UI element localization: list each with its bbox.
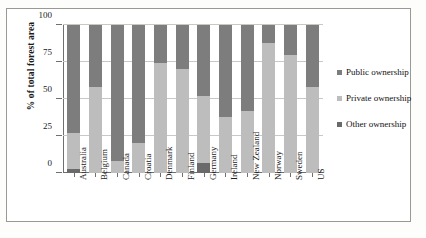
plot-area: 0255075100 AustraliaBelgiumCanadaCroatia… xyxy=(63,25,323,173)
bar-segment[interactable] xyxy=(89,25,102,87)
x-axis-label: Sweden xyxy=(294,152,304,181)
legend-item[interactable]: Other ownership xyxy=(337,119,426,129)
x-axis-label: Australia xyxy=(78,147,88,180)
legend-swatch-icon xyxy=(337,96,342,101)
x-axis-label: Denmark xyxy=(164,147,174,181)
bar-group: AustraliaBelgiumCanadaCroatiaDenmarkFinl… xyxy=(63,25,323,173)
bar-column[interactable]: Belgium xyxy=(89,25,102,173)
x-axis-label: Germany xyxy=(208,147,218,181)
y-axis-tick xyxy=(56,135,62,136)
x-axis-tick xyxy=(312,173,313,177)
bar-segment[interactable] xyxy=(111,25,124,161)
bar-column[interactable]: Ireland xyxy=(219,25,232,173)
x-axis-tick xyxy=(290,173,291,177)
bar-column[interactable]: Canada xyxy=(111,25,124,173)
bar-column[interactable]: Australia xyxy=(67,25,80,173)
x-axis-tick xyxy=(160,173,161,177)
x-axis-tick xyxy=(95,173,96,177)
y-axis-label: 75 xyxy=(43,47,52,57)
bar-segment[interactable] xyxy=(284,25,297,55)
y-axis-label: 100 xyxy=(39,10,53,20)
bar-column[interactable]: New Zealand xyxy=(241,25,254,173)
x-axis-tick xyxy=(225,173,226,177)
bar-segment[interactable] xyxy=(132,25,145,143)
bar-column[interactable]: Germany xyxy=(197,25,210,173)
bar-segment[interactable] xyxy=(241,25,254,111)
bar-column[interactable]: Finland xyxy=(176,25,189,173)
x-axis-label: Ireland xyxy=(229,155,239,180)
x-axis-label: New Zealand xyxy=(251,132,261,180)
y-axis-tick xyxy=(56,24,62,25)
bar-segment[interactable] xyxy=(67,25,80,133)
x-axis-label: Belgium xyxy=(99,149,109,180)
legend-swatch-icon xyxy=(337,122,342,127)
bar-segment[interactable] xyxy=(176,25,189,69)
x-axis-tick xyxy=(204,173,205,177)
legend-item[interactable]: Public ownership xyxy=(337,67,426,77)
bar-segment[interactable] xyxy=(197,25,210,96)
y-axis-tick xyxy=(56,61,62,62)
x-axis-tick xyxy=(269,173,270,177)
bar-segment[interactable] xyxy=(306,87,319,173)
bar-segment[interactable] xyxy=(219,25,232,117)
legend-label: Other ownership xyxy=(346,119,406,129)
y-axis-tick xyxy=(56,98,62,99)
y-axis-tick xyxy=(56,172,62,173)
y-axis-title: % of total forest area xyxy=(26,0,36,136)
x-axis-tick xyxy=(247,173,248,177)
x-axis-tick xyxy=(117,173,118,177)
legend-item[interactable]: Private ownership xyxy=(337,93,426,103)
bar-column[interactable]: Denmark xyxy=(154,25,167,173)
bar-column[interactable]: Sweden xyxy=(284,25,297,173)
chart-page: % of total forest area 0255075100 Austra… xyxy=(0,0,426,238)
x-axis-tick xyxy=(139,173,140,177)
bar-segment[interactable] xyxy=(262,25,275,43)
legend-label: Public ownership xyxy=(346,67,409,77)
bar-column[interactable]: Croatia xyxy=(132,25,145,173)
legend-swatch-icon xyxy=(337,70,342,75)
bar-segment[interactable] xyxy=(154,25,167,63)
x-axis-label: Croatia xyxy=(143,154,153,181)
chart-legend: Public ownershipPrivate ownershipOther o… xyxy=(337,67,426,145)
y-axis-label: 50 xyxy=(43,84,52,94)
x-axis-label: Canada xyxy=(121,153,131,180)
x-axis-label: US xyxy=(316,168,326,180)
x-axis-label: Norway xyxy=(273,151,283,180)
bar-column[interactable]: Norway xyxy=(262,25,275,173)
y-axis-label: 25 xyxy=(43,121,52,131)
y-axis-label: 0 xyxy=(48,158,53,168)
x-axis-tick xyxy=(182,173,183,177)
chart-frame: % of total forest area 0255075100 Austra… xyxy=(6,8,411,222)
x-axis-tick xyxy=(74,173,75,177)
bar-segment[interactable] xyxy=(306,25,319,87)
x-axis-label: Finland xyxy=(186,152,196,180)
legend-label: Private ownership xyxy=(346,93,411,103)
bar-column[interactable]: US xyxy=(306,25,319,173)
